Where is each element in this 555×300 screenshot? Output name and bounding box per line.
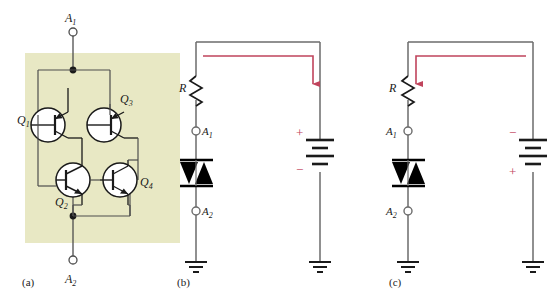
panel-c-label-A1: A1: [385, 125, 397, 140]
panel-a-caption: (a): [22, 276, 35, 289]
panel-b-resistor-label: R: [178, 81, 187, 95]
panel-b: R A1 A2 + −: [177, 42, 334, 289]
panel-c-label-A2: A2: [385, 205, 397, 220]
panel-b-battery: [306, 140, 334, 164]
panel-b-terminal-A2[interactable]: [192, 207, 200, 215]
panel-c-terminal-A1[interactable]: [404, 127, 412, 135]
panel-c-battery-plus: +: [509, 164, 516, 179]
panel-b-label-A2: A2: [201, 205, 213, 220]
panel-b-label-A1: A1: [201, 125, 213, 140]
panel-b-caption: (b): [177, 276, 190, 289]
panel-b-current-arrow: [203, 56, 313, 84]
figure-canvas: A1 A2: [0, 0, 555, 300]
panel-a: A1 A2: [17, 11, 180, 289]
panel-b-battery-minus: −: [296, 162, 303, 177]
panel-b-diac: [180, 160, 213, 186]
panel-a-label-A2: A2: [64, 272, 76, 288]
panel-c-ground-right: [522, 262, 544, 272]
panel-b-terminal-A1[interactable]: [192, 127, 200, 135]
panel-b-wires: [196, 42, 320, 262]
panel-c-current-arrow: [416, 56, 526, 84]
panel-c-caption: (c): [389, 276, 402, 289]
circuit-figure: A1 A2: [0, 0, 555, 300]
panel-c: R A1 A2 − +: [385, 42, 547, 289]
panel-c-diac: [392, 160, 425, 186]
panel-b-battery-plus: +: [296, 125, 303, 140]
panel-a-label-A1: A1: [64, 11, 76, 27]
panel-c-battery-minus: −: [509, 125, 516, 140]
panel-c-ground-left: [397, 262, 419, 272]
panel-c-terminal-A2[interactable]: [404, 207, 412, 215]
panel-b-ground-right: [309, 262, 331, 272]
panel-c-resistor-label: R: [388, 81, 397, 95]
panel-a-shading: [25, 53, 180, 243]
panel-c-battery: [519, 140, 547, 164]
panel-b-ground-left: [185, 262, 207, 272]
panel-c-wires: [408, 42, 533, 262]
